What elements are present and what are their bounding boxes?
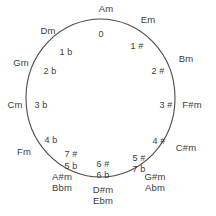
signature-label-4sharp: 4 # [153, 136, 166, 146]
key-label-bm: Bm [179, 54, 193, 64]
circle-shape [26, 19, 175, 177]
circle-of-fifths-diagram: AmEmBmF#mC#mG#mAbmD#mEbmA#mBbmFmCmGmDm 0… [0, 0, 216, 216]
signature-label-6flat: 6 b [97, 170, 110, 180]
key-label-f-m: F#m [182, 100, 201, 110]
key-label-bbm: Bbm [52, 183, 72, 193]
signature-label-0: 0 [98, 29, 103, 39]
signature-label-1flat: 1 b [60, 47, 73, 57]
signature-label-4flat: 4 b [45, 135, 58, 145]
signature-label-3flat: 3 b [35, 100, 48, 110]
key-label-am: Am [99, 4, 113, 14]
key-label-cm: Cm [8, 100, 23, 110]
key-label-gm: Gm [13, 58, 29, 68]
key-label-g-m: G#m [145, 172, 166, 182]
key-label-ebm: Ebm [93, 196, 113, 206]
signature-label-1sharp: 1 # [131, 41, 144, 51]
key-label-fm: Fm [17, 147, 31, 157]
key-label-c-m: C#m [176, 143, 196, 153]
signature-label-5sharp: 5 # [133, 153, 146, 163]
signature-label-5flat: 5 b [65, 161, 78, 171]
key-label-abm: Abm [145, 183, 165, 193]
signature-label-3sharp: 3 # [160, 100, 173, 110]
signature-label-6sharp: 6 # [97, 159, 110, 169]
key-label-a-m: A#m [52, 172, 72, 182]
key-label-dm: Dm [41, 26, 56, 36]
key-label-d-m: D#m [93, 185, 113, 195]
signature-label-7sharp: 7 # [65, 149, 78, 159]
signature-label-7flat: 7 b [133, 164, 146, 174]
key-label-em: Em [141, 15, 155, 25]
signature-label-2flat: 2 b [44, 66, 57, 76]
signature-label-2sharp: 2 # [152, 66, 165, 76]
